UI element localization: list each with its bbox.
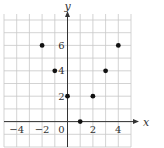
data-point [103,68,108,73]
data-point [78,119,83,124]
x-tick-label: −4 [9,124,24,135]
x-tick-label: 4 [115,124,121,135]
y-tick-label: 6 [58,40,64,51]
y-axis-title: y [64,0,72,13]
data-point [40,43,45,48]
data-point [116,43,121,48]
x-axis-title: x [143,116,150,129]
x-axis-arrow-icon [133,119,139,124]
data-point [91,94,96,99]
x-tick-label: −2 [35,124,50,135]
y-tick-label: 2 [58,91,64,102]
data-point [65,94,70,99]
x-tick-label: 0 [58,124,64,135]
y-tick-label: 4 [58,65,64,76]
tick-labels: −4−2024246 [9,40,121,135]
scatter-chart: −4−2024246 x y [0,0,164,148]
data-point [52,68,57,73]
x-tick-label: 2 [90,124,96,135]
